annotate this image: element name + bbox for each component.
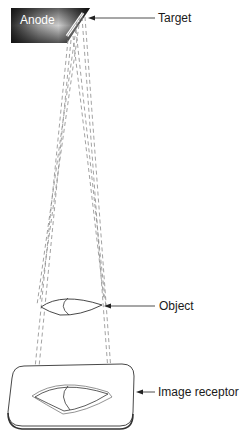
target-label: Target [158,11,191,25]
object-label: Object [159,299,194,313]
image-receptor [8,364,134,429]
receptor-leader-arrow [136,390,155,395]
anode-label: Anode [20,13,55,27]
x-ray-projection-diagram [0,0,249,437]
object [41,298,102,315]
beam-lines [32,17,113,398]
target-leader-arrow [88,16,155,21]
image-receptor-label: Image receptor [158,385,239,399]
object-leader-arrow [104,304,155,309]
